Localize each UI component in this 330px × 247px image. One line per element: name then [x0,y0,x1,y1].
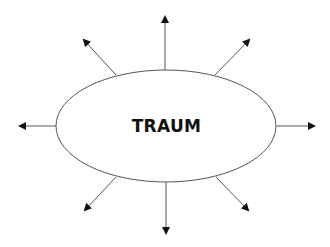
diagram-canvas: TRAUM [0,0,330,247]
arrow-down-right [216,177,248,210]
arrow-up-left [84,40,116,75]
arrow-up-right [215,40,249,75]
center-label: TRAUM [56,111,277,141]
arrow-down-left [85,177,116,210]
